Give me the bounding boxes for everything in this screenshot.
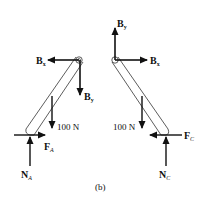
left-weight-label: 100 N: [57, 122, 80, 132]
left-friction-label: FA: [44, 141, 54, 153]
left-bx-label: Bx: [36, 55, 46, 67]
right-by-label: By: [117, 18, 127, 30]
right-normal-label: NC: [159, 169, 171, 181]
right-friction-label: FC: [184, 130, 195, 142]
left-normal-label: NA: [21, 169, 32, 181]
right-bx-label: Bx: [150, 55, 160, 67]
right-weight-label: 100 N: [113, 122, 136, 132]
left-by-label: By: [84, 91, 94, 103]
figure-caption: (b): [95, 182, 106, 192]
free-body-diagram: Bx By 100 N FA NA By Bx 100 N FC NC (b): [0, 0, 207, 206]
